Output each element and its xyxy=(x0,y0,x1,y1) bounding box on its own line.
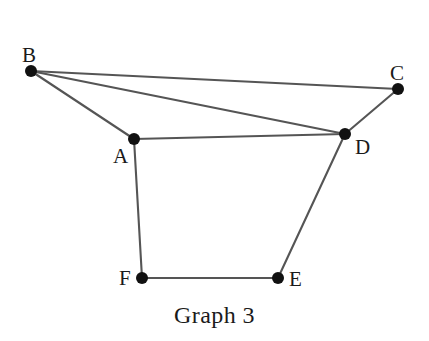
graph-vertex-f[interactable] xyxy=(136,272,148,284)
graph-edge-b-c xyxy=(31,71,398,89)
vertex-label-b: B xyxy=(22,45,36,66)
graph-canvas xyxy=(0,0,429,341)
edges-layer xyxy=(31,71,398,278)
graph-edge-d-e xyxy=(278,134,345,278)
vertex-label-f: F xyxy=(119,268,131,289)
graph-vertex-e[interactable] xyxy=(272,272,284,284)
graph-edge-a-d xyxy=(134,134,345,139)
graph-vertex-d[interactable] xyxy=(339,128,351,140)
figure-caption: Graph 3 xyxy=(0,303,429,327)
vertex-label-a: A xyxy=(113,146,128,167)
vertex-label-d: D xyxy=(355,137,370,158)
graph-figure: ABCDEF Graph 3 xyxy=(0,0,429,341)
vertex-label-e: E xyxy=(289,269,302,290)
graph-edge-a-f xyxy=(134,139,142,278)
vertices-layer xyxy=(25,65,404,284)
graph-vertex-a[interactable] xyxy=(128,133,140,145)
vertex-label-c: C xyxy=(390,63,404,84)
graph-edge-c-d xyxy=(345,89,398,134)
